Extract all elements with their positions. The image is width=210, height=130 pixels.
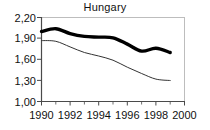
y-tick-label: 2,20 (15, 12, 36, 24)
x-tick-label: 1994 (86, 109, 110, 121)
y-tick-label: 1,00 (15, 96, 36, 108)
chart-figure: Hungary 2,20 1,90 1,60 1,30 1,00 (0, 0, 210, 130)
x-axis-tick-labels: 1990 1992 1994 1996 1998 2000 (29, 109, 196, 121)
x-tick-label: 2000 (172, 109, 196, 121)
data-line-thin-series (42, 41, 171, 81)
x-tick-label: 1998 (144, 109, 168, 121)
line-chart-plot: 2,20 1,90 1,60 1,30 1,00 1990 1992 1994 … (0, 0, 210, 130)
y-axis-tick-labels: 2,20 1,90 1,60 1,30 1,00 (15, 12, 36, 108)
x-tick-label: 1992 (58, 109, 82, 121)
y-tick-label: 1,90 (15, 32, 36, 44)
y-tick-label: 1,30 (15, 75, 36, 87)
data-line-thick-series (42, 29, 171, 53)
x-tick-label: 1990 (29, 109, 53, 121)
x-tick-label: 1996 (115, 109, 139, 121)
y-tick-label: 1,60 (15, 53, 36, 65)
